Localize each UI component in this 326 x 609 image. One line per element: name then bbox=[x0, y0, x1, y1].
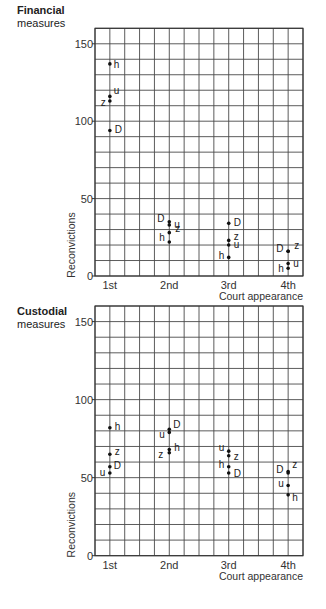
data-point-u bbox=[227, 449, 231, 453]
y-axis-label: Reconvictions bbox=[65, 492, 77, 557]
data-point-label: z bbox=[292, 459, 297, 470]
data-point-label: z bbox=[158, 449, 163, 460]
y-tick-label: 150 bbox=[75, 38, 93, 50]
x-tick-label: 1st bbox=[103, 559, 118, 571]
y-tick-label: 0 bbox=[87, 550, 93, 562]
x-tick-label: 2nd bbox=[160, 279, 178, 291]
y-axis-ticks: 050100150 bbox=[75, 316, 95, 562]
plot-grid bbox=[95, 28, 303, 276]
data-point-label: D bbox=[114, 460, 121, 471]
data-point-z bbox=[227, 239, 231, 243]
data-point-label: u bbox=[293, 258, 299, 269]
data-point-u bbox=[167, 431, 171, 435]
data-point-u bbox=[108, 95, 112, 99]
reconvictions-chart: Financial measures 050100150 1st2nd3rd4t… bbox=[0, 0, 326, 609]
y-tick-label: 100 bbox=[75, 394, 93, 406]
x-axis-label: Court appearance bbox=[219, 290, 303, 302]
data-point-label: u bbox=[159, 429, 165, 440]
data-point-label: D bbox=[115, 124, 122, 135]
data-point-h bbox=[227, 256, 231, 260]
data-point-u bbox=[227, 243, 231, 247]
y-tick-label: 0 bbox=[87, 270, 93, 282]
data-point-label: h bbox=[292, 492, 298, 503]
data-point-label: D bbox=[234, 468, 241, 479]
data-point-label: z bbox=[101, 97, 106, 108]
data-point-label: D bbox=[157, 213, 164, 224]
data-point-label: u bbox=[219, 442, 225, 453]
panel-title-line2: measures bbox=[17, 17, 66, 29]
panel-title-line2: measures bbox=[17, 318, 66, 330]
data-point-h bbox=[108, 62, 112, 66]
panel-title-line1: Custodial bbox=[17, 305, 67, 317]
plot-grid bbox=[95, 306, 303, 556]
data-point-label: D bbox=[276, 243, 283, 254]
data-point-h bbox=[108, 426, 112, 430]
data-point-h bbox=[167, 240, 171, 244]
data-point-label: h bbox=[114, 59, 120, 70]
data-point-D bbox=[227, 471, 231, 475]
x-tick-label: 2nd bbox=[160, 559, 178, 571]
data-point-label: h bbox=[278, 263, 284, 274]
data-point-z bbox=[167, 231, 171, 235]
data-point-D bbox=[227, 222, 231, 226]
data-point-h bbox=[227, 465, 231, 469]
data-point-label: u bbox=[278, 478, 284, 489]
y-axis-label: Reconvictions bbox=[65, 212, 77, 277]
data-point-label: D bbox=[276, 464, 283, 475]
data-point-label: h bbox=[174, 442, 180, 453]
data-point-h bbox=[286, 493, 290, 497]
y-tick-label: 50 bbox=[81, 472, 93, 484]
data-point-label: D bbox=[173, 419, 180, 430]
y-axis-ticks: 050100150 bbox=[75, 38, 95, 282]
data-point-z bbox=[108, 452, 112, 456]
custodial-measures-panel: Custodial measures 050100150 1st2nd3rd4t… bbox=[17, 305, 303, 582]
data-point-label: D bbox=[234, 217, 241, 228]
data-point-h bbox=[167, 448, 171, 452]
data-point-label: h bbox=[219, 250, 225, 261]
data-point-z bbox=[286, 249, 290, 253]
data-point-label: z bbox=[294, 240, 299, 251]
y-tick-label: 150 bbox=[75, 316, 93, 328]
data-point-u bbox=[286, 484, 290, 488]
y-tick-label: 50 bbox=[81, 193, 93, 205]
data-point-label: z bbox=[234, 451, 239, 462]
data-point-D bbox=[108, 465, 112, 469]
data-point-u bbox=[286, 262, 290, 266]
x-axis-label: Court appearance bbox=[219, 570, 303, 582]
data-point-z bbox=[227, 454, 231, 458]
data-point-z bbox=[167, 451, 171, 455]
data-point-D bbox=[108, 129, 112, 133]
data-point-label: z bbox=[234, 231, 239, 242]
data-point-D bbox=[167, 220, 171, 224]
data-point-label: h bbox=[115, 421, 121, 432]
data-point-z bbox=[286, 470, 290, 474]
y-tick-label: 100 bbox=[75, 115, 93, 127]
x-tick-label: 1st bbox=[103, 279, 118, 291]
data-point-u bbox=[167, 223, 171, 227]
data-points: DDDDuuuuzzzzhhhh bbox=[101, 59, 299, 274]
data-point-label: z bbox=[115, 446, 120, 457]
data-point-h bbox=[286, 266, 290, 270]
data-point-u bbox=[108, 471, 112, 475]
data-point-z bbox=[108, 99, 112, 103]
financial-measures-panel: Financial measures 050100150 1st2nd3rd4t… bbox=[17, 4, 303, 302]
panel-title-line1: Financial bbox=[17, 4, 65, 16]
data-point-label: u bbox=[100, 467, 106, 478]
data-point-D bbox=[167, 427, 171, 431]
data-point-label: h bbox=[159, 232, 165, 243]
data-point-label: z bbox=[175, 223, 180, 234]
data-point-label: u bbox=[114, 85, 120, 96]
data-point-label: h bbox=[219, 459, 225, 470]
